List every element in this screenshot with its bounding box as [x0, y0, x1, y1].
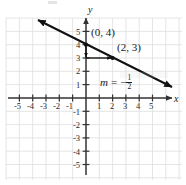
x-tick-label--5: -5: [14, 101, 21, 111]
y-tick-label-4: 4: [76, 40, 80, 50]
y-tick-label--3: -3: [73, 133, 80, 143]
slope-variable: m: [100, 76, 108, 88]
x-tick-label-5: 5: [149, 101, 153, 111]
slope-equals: =: [111, 76, 117, 88]
x-tick-label--2: -2: [53, 101, 60, 111]
point-2-3: [111, 56, 115, 60]
graph-figure: y x -5 -4 -3 -2 -1 1 2 3 4 5 5 4 3 2 1 -…: [0, 0, 186, 185]
y-tick-label--1: -1: [73, 107, 80, 117]
y-tick-label-2: 2: [76, 66, 80, 76]
y-axis-label: y: [88, 4, 92, 15]
y-tick-label-5: 5: [76, 27, 80, 37]
y-tick-label--2: -2: [73, 120, 80, 130]
y-tick-label--5: -5: [73, 160, 80, 170]
scan-artifact-top: [48, 1, 57, 4]
x-tick-label--3: -3: [40, 101, 47, 111]
x-tick-label--4: -4: [27, 101, 34, 111]
x-tick-label-3: 3: [123, 101, 127, 111]
y-tick-label-1: 1: [76, 80, 80, 90]
x-tick-label-4: 4: [136, 101, 140, 111]
x-tick-label-1: 1: [97, 101, 101, 111]
scan-artifact-mid: [120, 72, 168, 78]
x-tick-label-2: 2: [110, 101, 114, 111]
point-label-0-4: (0, 4): [91, 26, 115, 38]
point-0-4: [84, 43, 88, 47]
y-tick-label--4: -4: [73, 147, 80, 157]
y-tick-label-3: 3: [76, 53, 80, 63]
point-label-2-3: (2, 3): [117, 41, 141, 53]
x-axis-label: x: [174, 93, 178, 104]
slope-denominator: 2: [126, 82, 132, 91]
